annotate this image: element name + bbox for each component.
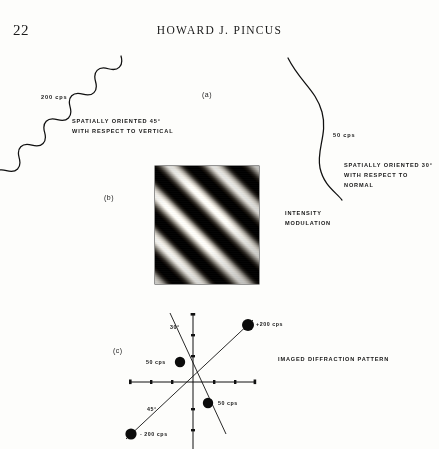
angle-label-45: 45° — [147, 405, 157, 413]
figure-page: 22 HOWARD J. PINCUS (a) 200 cps SPATIALL… — [0, 0, 439, 449]
spot-label-50cps-upper: 50 cps — [146, 358, 166, 366]
diffraction-diagram — [0, 0, 439, 449]
spot-label-minus-200cps: - 200 cps — [140, 430, 168, 438]
vertical-axis — [191, 313, 196, 449]
spot-minus-200cps — [125, 428, 136, 439]
spot-50cps-lower — [203, 398, 213, 408]
panel-letter-c: (c) — [113, 347, 123, 354]
spot-label-50cps-lower: 50 cps — [218, 399, 238, 407]
diffraction-pattern-title: IMAGED DIFFRACTION PATTERN — [278, 355, 389, 363]
spot-label-plus-200cps: +200 cps — [256, 320, 283, 328]
spot-50cps-upper — [175, 357, 185, 367]
diagonal-axis-45 — [126, 320, 253, 439]
spot-plus-200cps — [242, 319, 254, 331]
angle-label-30: 30° — [170, 323, 180, 331]
